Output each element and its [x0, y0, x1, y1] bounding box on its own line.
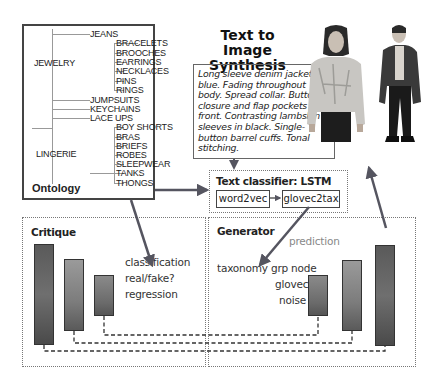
skip-connections — [44, 316, 385, 351]
arrow-generator-to-image — [369, 168, 386, 228]
connections-overlay — [0, 0, 436, 385]
arrow-glovec2tax-to-taxonomy — [260, 207, 309, 265]
arrow-ontology-to-critique — [131, 200, 152, 265]
